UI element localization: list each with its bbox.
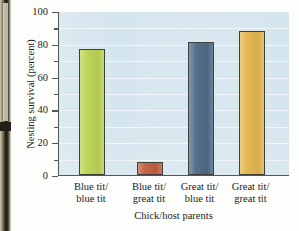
bar-4 (239, 31, 265, 175)
y-tick-minor (54, 61, 58, 62)
bar-2 (137, 162, 163, 175)
y-tick-minor (54, 28, 58, 29)
gridline (59, 28, 289, 29)
x-tick-label-1: Blue tit/blue tit (58, 181, 124, 204)
y-tick-major (52, 78, 58, 79)
y-tick-label: 60 (0, 73, 48, 84)
bar-sheen (240, 32, 264, 174)
x-tick-label-line1: Great tit/ (181, 181, 219, 192)
y-tick-major (52, 143, 58, 144)
y-tick-label: 80 (0, 40, 48, 51)
chart-figure: Nesting survival (percent) 020406080100 … (0, 0, 299, 231)
x-tick-label-line1: Blue tit/ (74, 181, 108, 192)
bar-3 (188, 42, 214, 175)
plot-inner (59, 12, 289, 175)
x-tick-label-line1: Great tit/ (232, 181, 270, 192)
y-tick-label: 40 (0, 105, 48, 116)
x-tick-label-line1: Blue tit/ (132, 181, 166, 192)
x-tick-label-line2: great tit (218, 193, 284, 205)
y-tick-major (52, 176, 58, 177)
x-axis-title: Chick/host parents (58, 210, 289, 221)
y-tick-major (52, 110, 58, 111)
y-tick-label: 0 (0, 171, 48, 182)
plot-area (58, 12, 289, 176)
y-tick-label: 20 (0, 138, 48, 149)
y-axis-title: Nesting survival (percent) (23, 12, 39, 176)
y-tick-major (52, 45, 58, 46)
x-tick-label-4: Great tit/great tit (218, 181, 284, 204)
y-tick-minor (54, 160, 58, 161)
y-tick-major (52, 12, 58, 13)
bar-sheen (138, 163, 162, 174)
page-scan-edge-mark (0, 122, 11, 131)
y-tick-minor (54, 94, 58, 95)
page-scan-edge-highlight (3, 3, 8, 121)
bar-1 (79, 49, 105, 175)
y-tick-label: 100 (0, 7, 48, 18)
bar-sheen (189, 43, 213, 174)
x-tick-label-line2: blue tit (58, 193, 124, 205)
bar-sheen (80, 50, 104, 174)
y-tick-minor (54, 127, 58, 128)
